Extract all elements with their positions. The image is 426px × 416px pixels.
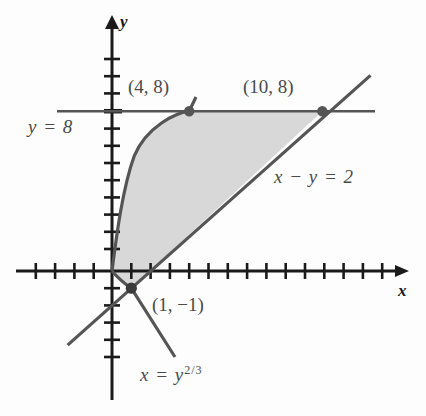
point-marker-10-8	[317, 106, 327, 116]
plot-canvas	[0, 0, 426, 416]
label-y-equals-8: y = 8	[28, 116, 73, 138]
point-label-4-8: (4, 8)	[128, 76, 169, 98]
point-marker-4-8	[184, 106, 194, 116]
point-label-10-8: (10, 8)	[243, 76, 294, 98]
curve-equation-base: x = y	[140, 364, 184, 385]
curve-equation-exponent: 2/3	[184, 363, 202, 377]
point-marker-1-neg1	[126, 283, 137, 294]
point-label-1-neg1: (1, −1)	[152, 294, 204, 316]
x-axis-label: x	[398, 281, 407, 301]
graph-figure: y x y = 8 x − y = 2 x = y2/3 (4, 8) (10,…	[0, 0, 426, 416]
label-line-equation: x − y = 2	[274, 166, 354, 188]
y-axis-label: y	[120, 12, 128, 32]
label-curve-equation: x = y2/3	[140, 363, 203, 386]
